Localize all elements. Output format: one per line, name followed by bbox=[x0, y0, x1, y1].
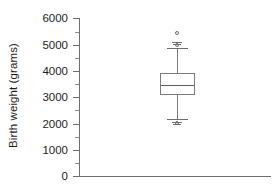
y-minor-tick-5500 bbox=[75, 32, 79, 33]
y-minor-tick-3500 bbox=[75, 84, 79, 85]
y-tick-4000 bbox=[73, 71, 79, 72]
y-tick-label-3000: 3000 bbox=[8, 92, 68, 104]
y-minor-tick-500 bbox=[75, 163, 79, 164]
y-tick-6000 bbox=[73, 18, 79, 19]
x-axis-line bbox=[79, 176, 271, 177]
interquartile-box bbox=[160, 73, 195, 95]
lower-whisker-line bbox=[177, 94, 178, 120]
outlier-marker-low-3 bbox=[175, 121, 179, 125]
y-axis-line bbox=[79, 18, 80, 177]
median-line bbox=[161, 85, 194, 86]
y-tick-label-2000: 2000 bbox=[8, 119, 68, 131]
outlier-marker-high-1 bbox=[175, 31, 179, 35]
y-tick-label-1000: 1000 bbox=[8, 145, 68, 157]
y-tick-label-0: 0 bbox=[8, 171, 68, 183]
y-tick-3000 bbox=[73, 97, 79, 98]
outlier-marker-high-4 bbox=[175, 43, 179, 47]
y-tick-label-5000: 5000 bbox=[8, 40, 68, 52]
y-tick-0 bbox=[73, 176, 79, 177]
upper-whisker-cap bbox=[167, 48, 188, 49]
plot-area: 6000 5000 4000 3000 2000 1000 0 bbox=[0, 0, 276, 191]
y-tick-1000 bbox=[73, 150, 79, 151]
boxplot-figure: Birth weight (grams) 6000 5000 4000 3000… bbox=[0, 0, 276, 191]
lower-whisker-cap bbox=[167, 119, 188, 120]
y-tick-2000 bbox=[73, 124, 79, 125]
y-tick-5000 bbox=[73, 45, 79, 46]
y-minor-tick-1500 bbox=[75, 137, 79, 138]
y-minor-tick-2500 bbox=[75, 110, 79, 111]
y-tick-label-4000: 4000 bbox=[8, 66, 68, 78]
y-tick-label-6000: 6000 bbox=[8, 13, 68, 25]
upper-whisker-line bbox=[177, 48, 178, 74]
y-minor-tick-4500 bbox=[75, 58, 79, 59]
